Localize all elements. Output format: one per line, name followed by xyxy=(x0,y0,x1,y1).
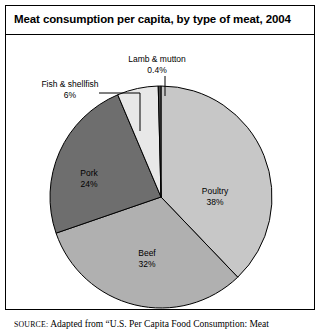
slice-label-fish-name: Fish & shellfish xyxy=(41,79,98,89)
slice-label-poultry-value: 38% xyxy=(206,197,223,207)
slice-label-poultry: Poultry 38% xyxy=(186,186,244,207)
slice-label-lamb-name: Lamb & mutton xyxy=(128,54,186,64)
slice-label-beef-value: 32% xyxy=(138,259,155,269)
slice-label-lamb-value: 0.4% xyxy=(147,65,166,75)
slice-label-fish-value: 6% xyxy=(64,90,76,100)
slice-label-pork-value: 24% xyxy=(80,179,97,189)
source-note: SOURCE: Adapted from “U.S. Per Capita Fo… xyxy=(14,318,318,331)
pie-chart-figure: Meat consumption per capita, by type of … xyxy=(0,0,324,335)
source-text: Adapted from “U.S. Per Capita Food Consu… xyxy=(48,319,269,329)
slice-label-pork-name: Pork xyxy=(80,168,97,178)
slice-label-beef-name: Beef xyxy=(138,248,156,258)
source-label: SOURCE: xyxy=(14,320,48,329)
pie-svg xyxy=(0,0,324,335)
slice-label-beef: Beef 32% xyxy=(118,248,176,269)
chart-plot-area: Poultry 38% Beef 32% Pork 24% Fish & she… xyxy=(0,0,324,335)
slice-label-fish-and-shellfish: Fish & shellfish 6% xyxy=(26,79,114,100)
slice-label-pork: Pork 24% xyxy=(60,168,118,189)
slice-label-poultry-name: Poultry xyxy=(202,186,228,196)
slice-label-lamb-and-mutton: Lamb & mutton 0.4% xyxy=(102,54,212,75)
